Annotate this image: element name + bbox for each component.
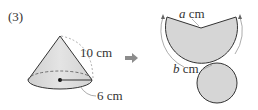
radius-leader	[80, 86, 96, 96]
slant-label: 10 cm	[80, 45, 112, 60]
sector-radius-unit: cm	[186, 6, 205, 21]
sector-radius-label: a cm	[179, 6, 205, 21]
base-circle	[197, 63, 237, 103]
arc-length-unit: cm	[180, 61, 199, 76]
arc-length-label: b cm	[173, 61, 199, 76]
problem-number: (3)	[8, 9, 23, 24]
sector	[161, 14, 242, 67]
right-arrow-icon	[125, 53, 138, 63]
cone-net-diagram: (3) 10 cm 6 cm a cm b cm	[0, 0, 258, 110]
radius-label: 6 cm	[97, 88, 123, 103]
